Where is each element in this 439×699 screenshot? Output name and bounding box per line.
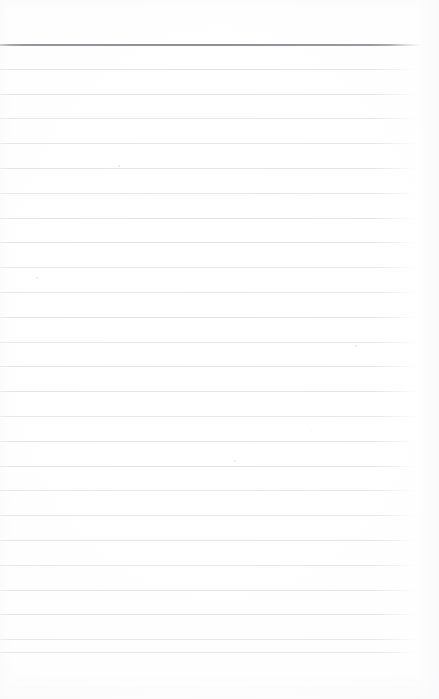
notepad-page: Blank Ruled Notepad Page: [0, 0, 439, 699]
rule-line: [0, 652, 420, 653]
writing-area[interactable]: [0, 44, 420, 652]
